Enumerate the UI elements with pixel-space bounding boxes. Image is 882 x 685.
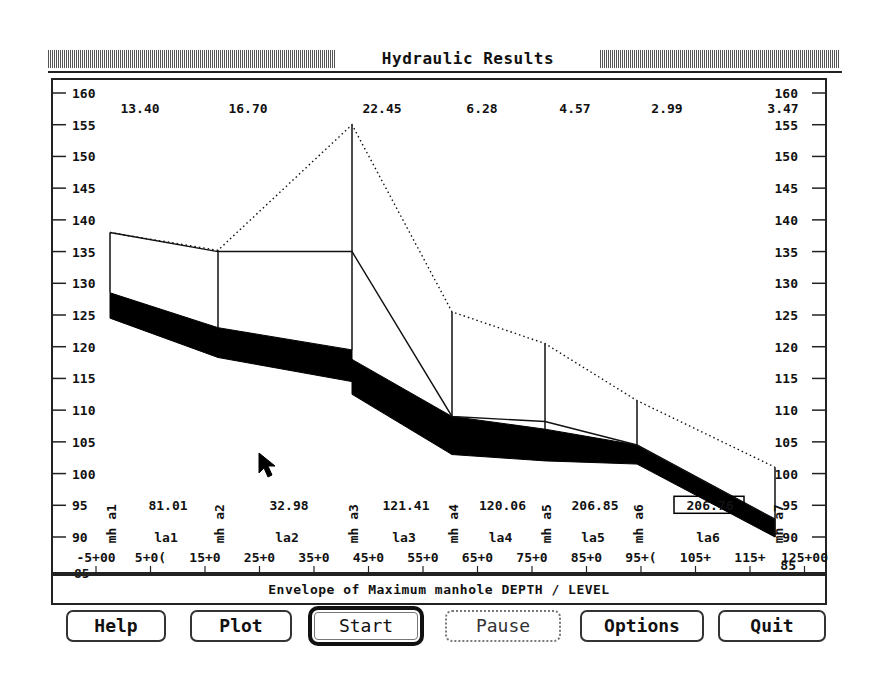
- link-name-label: la5: [581, 530, 604, 545]
- pipe-band: [637, 445, 775, 537]
- pipe-band: [110, 293, 218, 358]
- y-label-right: 105: [775, 435, 798, 450]
- x-tick-label: 45+0: [353, 550, 384, 565]
- manhole-label: mh a5: [539, 504, 554, 543]
- y-label-left: 150: [72, 149, 96, 164]
- caption-box: Envelope of Maximum manhole DEPTH / LEVE…: [51, 574, 827, 605]
- x-tick-label: 5+0(: [135, 550, 166, 565]
- link-name-label: la1: [154, 530, 178, 545]
- y-label-right: 140: [775, 213, 799, 228]
- y-label-right: 130: [775, 276, 799, 291]
- link-length-label: 121.41: [383, 498, 430, 513]
- x-tick-label: 55+0: [407, 550, 438, 565]
- y-label-right: 120: [775, 340, 799, 355]
- y-label-left: 110: [72, 403, 96, 418]
- y-label-right: 125: [775, 308, 798, 323]
- pipe-band: [352, 359, 452, 454]
- manhole-label: mh a3: [346, 504, 361, 543]
- manhole-depth-label: 13.40: [120, 101, 159, 116]
- start-button[interactable]: Start: [308, 606, 424, 646]
- x-tick-label: 115+: [734, 550, 765, 565]
- x-tick-label: 105+: [680, 550, 711, 565]
- link-name-label: la6: [696, 530, 720, 545]
- y-label-left: 125: [72, 308, 95, 323]
- y-label-left: 90: [72, 530, 88, 545]
- x-tick-label: -5+00: [76, 550, 115, 565]
- x-tick-label: 75+0: [516, 550, 547, 565]
- y-label-left: 100: [72, 467, 96, 482]
- y-label-right: 160: [775, 86, 799, 101]
- y-label-right: 150: [775, 149, 799, 164]
- manhole-depth-label: 2.99: [651, 101, 682, 116]
- link-length-label: 81.01: [148, 498, 187, 513]
- y-label-left: 95: [72, 498, 88, 513]
- link-name-label: la4: [489, 530, 513, 545]
- x-tick-label: 15+0: [189, 550, 220, 565]
- plot-button[interactable]: Plot: [190, 610, 292, 642]
- link-length-label: 32.98: [269, 498, 308, 513]
- manhole-label: mh a4: [446, 504, 461, 543]
- y-label-right: 110: [775, 403, 799, 418]
- help-button[interactable]: Help: [66, 610, 166, 642]
- y-label-left: 115: [72, 371, 95, 386]
- quit-button[interactable]: Quit: [718, 610, 826, 642]
- link-length-label: 206.85: [572, 498, 619, 513]
- manhole-depth-label: 3.47: [767, 101, 798, 116]
- manhole-label: mh a1: [104, 504, 119, 543]
- options-button[interactable]: Options: [580, 610, 704, 642]
- y-label-right: 100: [775, 467, 799, 482]
- y-label-right: 145: [775, 181, 798, 196]
- manhole-label: mh a2: [212, 504, 227, 543]
- mouse-pointer-icon: [257, 452, 281, 480]
- x-tick-label: 125+00: [781, 550, 828, 565]
- manhole-label: mh a7: [771, 504, 786, 543]
- x-tick-label: 95+(: [625, 550, 656, 565]
- y-label-left: 140: [72, 213, 96, 228]
- manhole-label: mh a6: [631, 504, 646, 543]
- manhole-depth-label: 6.28: [466, 101, 497, 116]
- y-label-left: 155: [72, 118, 95, 133]
- manhole-depth-label: 16.70: [228, 101, 267, 116]
- chart-caption: Envelope of Maximum manhole DEPTH / LEVE…: [51, 582, 827, 597]
- pipe-band: [545, 429, 637, 464]
- x-tick-label: 25+0: [244, 550, 275, 565]
- y-label-left: 135: [72, 245, 95, 260]
- link-length-label: 120.06: [479, 498, 526, 513]
- x-tick-label: 65+0: [462, 550, 493, 565]
- y-label-left: 145: [72, 181, 95, 196]
- pipe-band: [218, 328, 352, 382]
- y-label-right: 155: [775, 118, 798, 133]
- x-tick-label: 85+0: [571, 550, 602, 565]
- link-name-label: la3: [392, 530, 415, 545]
- link-name-label: la2: [275, 530, 298, 545]
- y-label-right: 135: [775, 245, 798, 260]
- y-label-right: 115: [775, 371, 798, 386]
- x-tick-label: 35+0: [298, 550, 329, 565]
- y-label-left: 130: [72, 276, 96, 291]
- y-label-left: 105: [72, 435, 95, 450]
- manhole-depth-label: 4.57: [559, 101, 590, 116]
- pause-button[interactable]: Pause: [445, 610, 561, 642]
- link-length-label: 206.76: [687, 498, 734, 513]
- pipe-band: [452, 416, 545, 460]
- y-label-left: 120: [72, 340, 96, 355]
- manhole-depth-label: 22.45: [362, 101, 401, 116]
- y-label-left: 160: [72, 86, 96, 101]
